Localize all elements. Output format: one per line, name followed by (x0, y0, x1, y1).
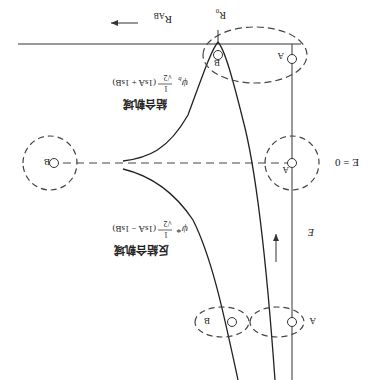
atom-a-eq-label: A (277, 51, 284, 61)
r0-label: R0 (215, 7, 226, 21)
mo-energy-diagram: RAB R0 B A B A B A E = 0 E 結合軌域 ψb 1 √2 … (0, 0, 373, 380)
atom-b-anti-label: B (204, 316, 210, 326)
r-ab-label: RAB (154, 11, 172, 26)
atom-a-eq (288, 55, 297, 64)
antibonding-coef-num: 1 (164, 230, 168, 239)
atom-b-anti (228, 318, 237, 327)
e-zero-label: E = 0 (335, 157, 359, 169)
atom-a-anti-label: A (309, 316, 316, 326)
energy-arrow-head (273, 234, 279, 241)
bonding-orbital-label: 結合軌域 (123, 97, 167, 111)
bonding-coef-num: 1 (164, 84, 168, 93)
bonding-psi: ψb (178, 75, 188, 89)
energy-axis-label: E (308, 227, 315, 238)
atom-a-anti (288, 318, 297, 327)
atom-b-far-label: B (44, 157, 50, 167)
antibonding-psi: ψ* (177, 224, 188, 235)
antibonding-formula: (1sA − 1sB) (112, 224, 156, 234)
antibonding-curve (123, 169, 238, 380)
orbital-b-antibonding (195, 307, 249, 337)
bonding-coef-den: √2 (164, 73, 172, 82)
distance-arrow-head (111, 20, 118, 26)
antibonding-coef-den: √2 (164, 219, 172, 228)
bonding-formula: (1sA + 1sB) (112, 78, 156, 88)
atom-b-eq-label: B (214, 58, 220, 68)
atom-a-far-label: A (282, 165, 289, 175)
antibonding-orbital-label: 反結合軌域 (114, 243, 169, 257)
